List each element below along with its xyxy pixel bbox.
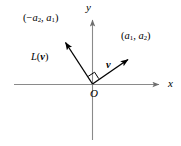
point-label-v: (a1, a2)	[121, 31, 151, 42]
paren-close: )	[45, 51, 49, 62]
vector-v-label: v	[106, 60, 111, 71]
point-label-Lv: (−a2, a1)	[23, 13, 58, 24]
right-angle-marker	[88, 72, 99, 78]
origin-label: O	[90, 88, 98, 99]
vector-Lv-label: L(v)	[31, 52, 49, 63]
y-axis-label: y	[86, 2, 91, 13]
vector-Lv-line	[66, 43, 93, 85]
paren-close: )	[55, 12, 59, 23]
x-axis-label: x	[168, 78, 173, 89]
paren-close: )	[147, 30, 151, 41]
coordinate-plane-figure: y x O (−a2, a1) (a1, a2) v L(v)	[0, 0, 181, 146]
